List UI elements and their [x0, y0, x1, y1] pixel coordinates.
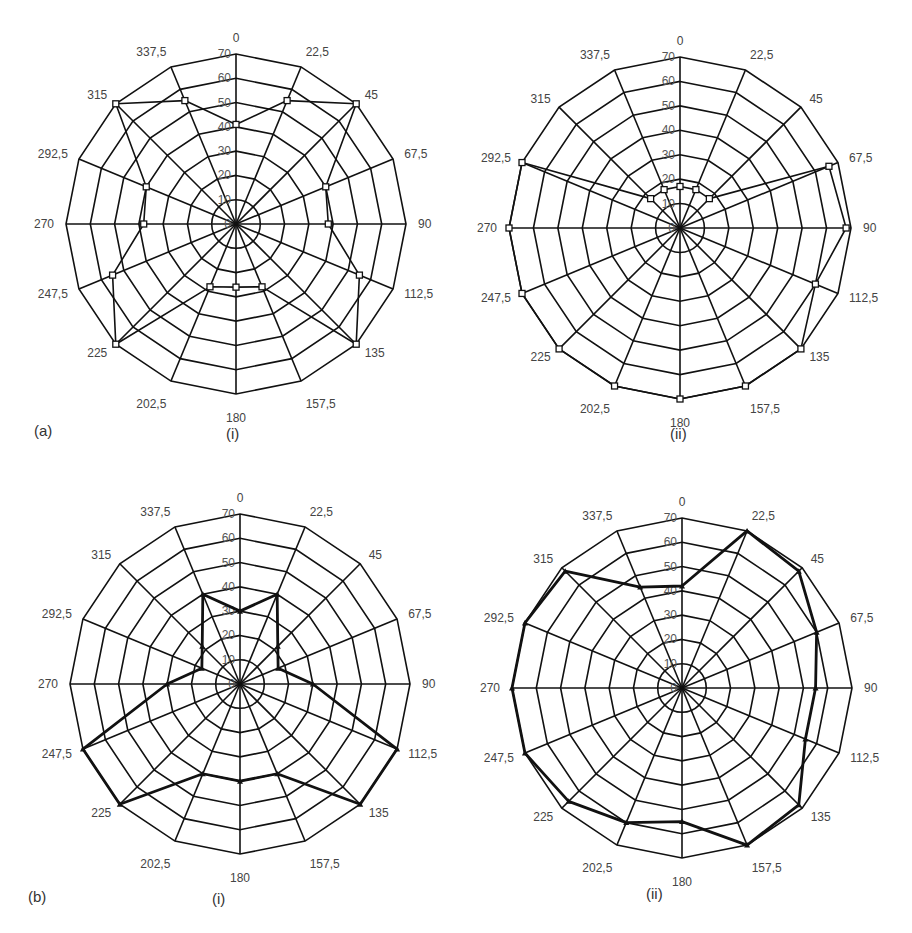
data-point-marker	[113, 101, 119, 107]
svg-text:202,5: 202,5	[580, 402, 610, 416]
svg-text:0: 0	[228, 677, 235, 691]
data-point-marker	[661, 187, 667, 193]
data-point-marker	[826, 163, 832, 169]
svg-text:45: 45	[811, 552, 825, 566]
svg-text:10: 10	[662, 197, 676, 211]
svg-text:20: 20	[218, 168, 232, 182]
data-series	[506, 160, 849, 402]
svg-text:40: 40	[222, 580, 236, 594]
svg-text:225: 225	[531, 350, 551, 364]
svg-text:10: 10	[664, 657, 678, 671]
svg-text:60: 60	[664, 535, 678, 549]
svg-text:60: 60	[662, 74, 676, 88]
svg-text:112,5: 112,5	[404, 287, 433, 301]
svg-text:292,5: 292,5	[38, 147, 68, 161]
data-point-marker	[506, 225, 512, 231]
svg-text:135: 135	[811, 810, 831, 824]
data-point-marker	[612, 383, 618, 389]
svg-text:180: 180	[672, 875, 692, 889]
svg-text:315: 315	[531, 92, 551, 106]
radial-tick-labels: 010203040506070	[218, 47, 232, 231]
svg-text:112,5: 112,5	[849, 291, 878, 305]
data-point-marker	[110, 272, 116, 278]
svg-text:30: 30	[664, 608, 678, 622]
data-point-marker	[141, 221, 147, 227]
svg-text:67,5: 67,5	[850, 611, 874, 625]
data-point-marker	[693, 187, 699, 193]
data-point-marker	[143, 184, 149, 190]
data-point-marker	[812, 281, 818, 287]
svg-text:60: 60	[222, 531, 236, 545]
svg-text:180: 180	[226, 411, 246, 425]
svg-text:157,5: 157,5	[306, 397, 336, 411]
svg-text:270: 270	[38, 677, 58, 691]
svg-text:157,5: 157,5	[310, 857, 340, 871]
svg-text:337,5: 337,5	[582, 509, 612, 523]
svg-text:22,5: 22,5	[306, 45, 330, 59]
svg-text:157,5: 157,5	[752, 861, 782, 875]
svg-text:50: 50	[664, 560, 678, 574]
data-point-marker	[325, 221, 331, 227]
svg-text:247,5: 247,5	[481, 291, 511, 305]
svg-text:30: 30	[662, 148, 676, 162]
svg-text:337,5: 337,5	[580, 48, 610, 62]
svg-text:202,5: 202,5	[136, 397, 166, 411]
svg-text:67,5: 67,5	[404, 147, 428, 161]
svg-text:10: 10	[218, 193, 232, 207]
svg-text:112,5: 112,5	[408, 747, 437, 761]
svg-text:90: 90	[864, 681, 878, 695]
svg-text:60: 60	[218, 71, 232, 85]
data-point-marker	[706, 196, 712, 202]
data-point-marker	[519, 160, 525, 166]
data-point-marker	[259, 284, 265, 290]
svg-text:337,5: 337,5	[136, 45, 166, 59]
data-point-marker	[207, 284, 213, 290]
data-point-marker	[519, 290, 525, 296]
svg-text:0: 0	[224, 217, 231, 231]
svg-text:90: 90	[422, 677, 436, 691]
svg-text:157,5: 157,5	[750, 402, 780, 416]
chart-b-ii: 010203040506070022,54567,590112,5135157,…	[456, 460, 912, 933]
data-point-marker	[742, 383, 748, 389]
svg-text:40: 40	[662, 123, 676, 137]
svg-text:180: 180	[230, 871, 250, 885]
svg-text:90: 90	[863, 221, 877, 235]
svg-text:22,5: 22,5	[310, 505, 334, 519]
data-point-marker	[356, 272, 362, 278]
radar-chart-a-i: 010203040506070022,54567,590112,5135157,…	[0, 0, 456, 450]
svg-text:225: 225	[87, 346, 107, 360]
data-point-marker	[284, 98, 290, 104]
data-point-marker	[648, 196, 654, 202]
svg-text:270: 270	[34, 217, 54, 231]
svg-text:45: 45	[365, 88, 379, 102]
svg-text:202,5: 202,5	[140, 857, 170, 871]
svg-text:0: 0	[233, 31, 240, 45]
svg-text:10: 10	[222, 653, 236, 667]
svg-text:135: 135	[369, 806, 389, 820]
data-point-marker	[233, 284, 239, 290]
svg-text:112,5: 112,5	[850, 751, 879, 765]
svg-text:22,5: 22,5	[752, 509, 776, 523]
svg-text:292,5: 292,5	[42, 607, 72, 621]
svg-text:315: 315	[533, 552, 553, 566]
svg-text:45: 45	[369, 548, 383, 562]
svg-text:0: 0	[679, 495, 686, 509]
data-point-marker	[233, 121, 239, 127]
chart-b-i: 010203040506070022,54567,590112,5135157,…	[0, 460, 456, 933]
svg-text:0: 0	[677, 34, 684, 48]
svg-text:315: 315	[87, 88, 107, 102]
svg-text:30: 30	[218, 144, 232, 158]
panel-label-b-ii: (ii)	[646, 885, 663, 902]
chart-a-ii: 010203040506070022,54567,590112,5135157,…	[456, 0, 912, 450]
svg-text:50: 50	[662, 99, 676, 113]
svg-text:292,5: 292,5	[484, 611, 514, 625]
chart-a-i: 010203040506070022,54567,590112,5135157,…	[0, 0, 456, 450]
svg-text:20: 20	[664, 632, 678, 646]
radial-tick-labels: 010203040506070	[222, 507, 236, 691]
radar-chart-b-ii: 010203040506070022,54567,590112,5135157,…	[456, 460, 912, 933]
svg-text:270: 270	[480, 681, 500, 695]
svg-text:70: 70	[662, 50, 676, 64]
svg-text:0: 0	[237, 491, 244, 505]
svg-text:67,5: 67,5	[408, 607, 432, 621]
panel-label-a-ii: (ii)	[670, 425, 687, 442]
